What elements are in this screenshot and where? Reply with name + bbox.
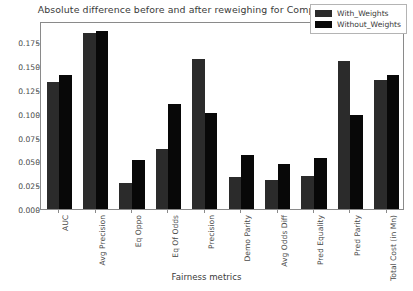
y-tick-mark	[36, 162, 39, 163]
y-tick-label: 0.000	[6, 206, 40, 215]
bar-group	[156, 23, 181, 209]
x-tick-label: Eq Oppo	[134, 215, 143, 247]
x-tick-label: Avg Odds Diff	[280, 215, 289, 267]
x-tick-label: Pred Parity	[353, 215, 362, 256]
x-tick-mark	[131, 210, 132, 213]
y-tick-label: 0.125	[6, 87, 40, 96]
legend-swatch-with-weights	[315, 10, 332, 17]
plot-area	[40, 22, 404, 210]
bar-with-weights	[83, 33, 96, 209]
bar-without-weights	[205, 113, 218, 209]
y-axis: 0.0000.0250.0500.0750.1000.1250.1500.175	[0, 22, 40, 210]
bar-without-weights	[350, 115, 363, 209]
bar-without-weights	[314, 158, 327, 209]
bar-without-weights	[241, 155, 254, 209]
chart-legend: With_Weights Without_Weights	[310, 4, 407, 34]
bar-group	[301, 23, 326, 209]
bar-group	[47, 23, 72, 209]
x-tick-mark	[240, 210, 241, 213]
bar-without-weights	[278, 164, 291, 209]
bar-group	[192, 23, 217, 209]
bar-without-weights	[387, 75, 400, 209]
x-tick-mark	[349, 210, 350, 213]
y-tick-mark	[36, 186, 39, 187]
x-tick-mark	[277, 210, 278, 213]
legend-label-with-weights: With_Weights	[337, 9, 388, 18]
legend-item-with-weights: With_Weights	[315, 8, 401, 19]
y-tick-label: 0.150	[6, 63, 40, 72]
y-tick-label: 0.075	[6, 134, 40, 143]
y-tick-mark	[36, 43, 39, 44]
x-tick-mark	[313, 210, 314, 213]
bar-group	[338, 23, 363, 209]
y-tick-label: 0.025	[6, 182, 40, 191]
y-tick-label: 0.175	[6, 39, 40, 48]
y-tick-label: 0.050	[6, 158, 40, 167]
bar-with-weights	[229, 177, 242, 209]
bar-with-weights	[192, 59, 205, 209]
x-tick-label: Precision	[207, 215, 216, 249]
x-tick-label: Demo Parity	[243, 215, 252, 262]
x-tick-mark	[58, 210, 59, 213]
y-tick-mark	[36, 91, 39, 92]
bar-group	[374, 23, 399, 209]
bar-without-weights	[96, 31, 109, 209]
bar-group	[229, 23, 254, 209]
chart-figure: Absolute difference before and after rew…	[0, 0, 413, 291]
x-axis: AUCAvg PrecisionEq OppoEq Of OddsPrecisi…	[40, 210, 404, 268]
x-tick-label: Avg Precision	[98, 215, 107, 265]
bar-group	[265, 23, 290, 209]
x-axis-title: Fairness metrics	[0, 272, 413, 282]
y-tick-mark	[36, 139, 39, 140]
y-tick-label: 0.100	[6, 110, 40, 119]
bar-without-weights	[59, 75, 72, 209]
bar-without-weights	[168, 104, 181, 209]
legend-label-without-weights: Without_Weights	[337, 20, 401, 29]
bar-with-weights	[156, 149, 169, 209]
y-tick-mark	[36, 115, 39, 116]
legend-swatch-without-weights	[315, 21, 332, 28]
bar-group	[83, 23, 108, 209]
x-tick-label: Pred Equality	[316, 215, 325, 265]
legend-item-without-weights: Without_Weights	[315, 19, 401, 30]
bar-with-weights	[338, 61, 351, 209]
bar-with-weights	[47, 82, 60, 209]
bar-with-weights	[374, 80, 387, 209]
x-tick-label: Eq Of Odds	[171, 215, 180, 258]
x-tick-mark	[204, 210, 205, 213]
bar-group	[119, 23, 144, 209]
x-tick-label: AUC	[61, 215, 70, 231]
bar-with-weights	[119, 183, 132, 209]
x-tick-mark	[95, 210, 96, 213]
bar-with-weights	[301, 176, 314, 209]
x-tick-mark	[386, 210, 387, 213]
bar-without-weights	[132, 160, 145, 209]
x-tick-mark	[167, 210, 168, 213]
y-tick-mark	[36, 67, 39, 68]
y-tick-mark	[36, 210, 39, 211]
bar-with-weights	[265, 180, 278, 210]
